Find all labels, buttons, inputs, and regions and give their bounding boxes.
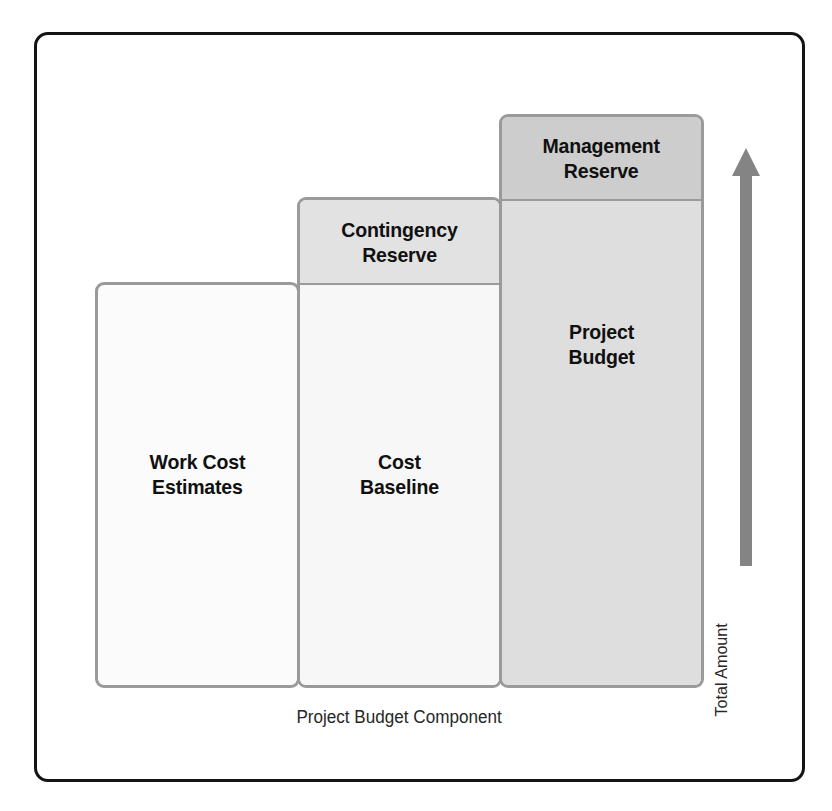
bar-cost-baseline[interactable]: Contingency Reserve Cost Baseline: [297, 197, 502, 688]
segment-project-budget[interactable]: Project Budget: [502, 201, 701, 685]
segment-label-work-cost-estimates: Work Cost Estimates: [150, 450, 246, 500]
segment-label-project-budget: Project Budget: [568, 320, 634, 370]
plot-area: Management Reserve Project Budget Contin…: [0, 0, 832, 811]
segment-label-cost-baseline: Cost Baseline: [360, 450, 439, 500]
diagram-canvas: Management Reserve Project Budget Contin…: [0, 0, 832, 811]
x-axis-label-text: Project Budget Component: [297, 707, 502, 728]
segment-contingency-reserve[interactable]: Contingency Reserve: [300, 200, 499, 285]
total-amount-up-arrow-icon: [731, 146, 761, 568]
segment-label-management-reserve: Management Reserve: [543, 134, 661, 184]
y-axis-label: Total Amount: [712, 570, 732, 770]
segment-management-reserve[interactable]: Management Reserve: [502, 117, 701, 201]
bar-project-budget[interactable]: Management Reserve Project Budget: [499, 114, 704, 688]
x-axis-label: Project Budget Component: [95, 707, 704, 728]
segment-work-cost-estimates[interactable]: Work Cost Estimates: [98, 285, 297, 685]
y-axis-label-text: Total Amount: [712, 623, 732, 716]
bar-work-cost-estimates[interactable]: Work Cost Estimates: [95, 282, 300, 688]
segment-cost-baseline[interactable]: Cost Baseline: [300, 285, 499, 685]
segment-label-contingency-reserve: Contingency Reserve: [341, 218, 457, 268]
